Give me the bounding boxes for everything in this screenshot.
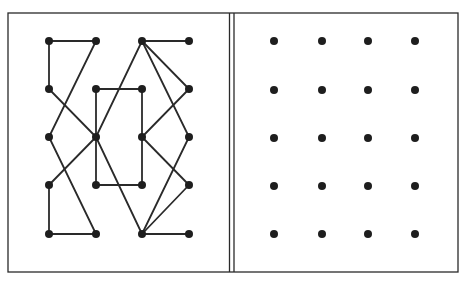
pattern-dot	[92, 85, 100, 93]
grid-dot	[411, 86, 419, 94]
grid-dot	[270, 37, 278, 45]
pattern-dot	[185, 85, 193, 93]
grid-dot	[411, 182, 419, 190]
pattern-dot	[92, 181, 100, 189]
pattern-dot	[92, 230, 100, 238]
pattern-dot	[45, 37, 53, 45]
grid-dot	[318, 230, 326, 238]
pattern-dot	[45, 133, 53, 141]
grid-dot	[411, 134, 419, 142]
pattern-dot	[185, 37, 193, 45]
grid-dot	[318, 182, 326, 190]
pattern-dot	[92, 37, 100, 45]
pattern-dot	[185, 230, 193, 238]
grid-dot	[270, 182, 278, 190]
dot-pattern-figure	[0, 0, 467, 281]
pattern-dot	[92, 133, 100, 141]
grid-dot	[270, 86, 278, 94]
pattern-dot	[45, 85, 53, 93]
pattern-dot	[138, 181, 146, 189]
pattern-dot	[45, 230, 53, 238]
grid-dot	[270, 134, 278, 142]
pattern-dot	[45, 181, 53, 189]
grid-dot	[364, 230, 372, 238]
pattern-dot	[185, 181, 193, 189]
pattern-dot	[138, 37, 146, 45]
pattern-dot	[138, 85, 146, 93]
pattern-dot	[185, 133, 193, 141]
pattern-dot	[138, 230, 146, 238]
grid-dot	[270, 230, 278, 238]
grid-dot	[364, 182, 372, 190]
grid-dot	[318, 86, 326, 94]
pattern-dot	[138, 133, 146, 141]
grid-dot	[318, 134, 326, 142]
grid-dot	[318, 37, 326, 45]
grid-dot	[364, 134, 372, 142]
grid-dot	[364, 37, 372, 45]
grid-dot	[411, 230, 419, 238]
grid-dot	[411, 37, 419, 45]
grid-dot	[364, 86, 372, 94]
